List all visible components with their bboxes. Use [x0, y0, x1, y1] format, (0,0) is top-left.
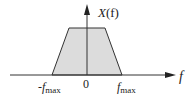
- x-axis-label: f: [179, 69, 185, 84]
- frequency-axis-arrow-icon: [165, 72, 176, 78]
- spectrum-diagram: X(f) f -fmax 0 fmax: [0, 0, 193, 104]
- tick-label-zero: 0: [83, 77, 89, 91]
- tick-label-neg-fmax: -fmax: [38, 80, 61, 95]
- amplitude-axis-arrow-icon: [84, 4, 90, 15]
- y-axis-label: X(f): [97, 5, 119, 20]
- tick-label-pos-fmax: fmax: [117, 80, 136, 95]
